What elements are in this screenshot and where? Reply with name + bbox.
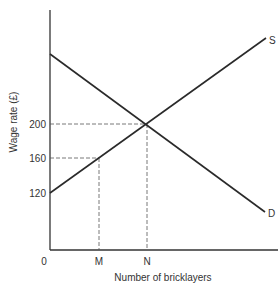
supply-curve (50, 38, 266, 193)
y-tick-120: 120 (29, 188, 46, 199)
x-tick-n: N (143, 256, 150, 267)
demand-curve (50, 54, 265, 212)
y-tick-160: 160 (29, 153, 46, 164)
demand-label: D (268, 208, 275, 219)
labour-market-chart: S D 200 160 120 0 M N Number of bricklay… (0, 0, 280, 285)
supply-label: S (269, 35, 276, 46)
x-axis-title: Number of bricklayers (114, 272, 211, 283)
x-tick-origin: 0 (41, 256, 47, 267)
y-tick-200: 200 (29, 119, 46, 130)
y-axis-title: Wage rate (£) (8, 92, 19, 153)
x-tick-m: M (95, 256, 103, 267)
